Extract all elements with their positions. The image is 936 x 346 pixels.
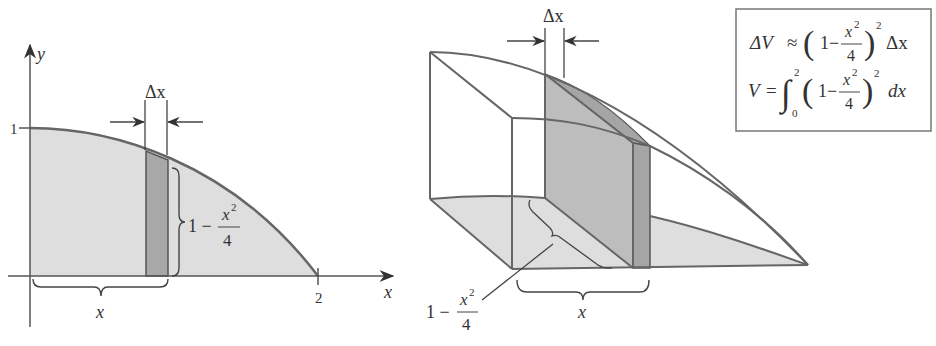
delta-x-label: Δx bbox=[145, 82, 166, 102]
y-axis-label: y bbox=[35, 44, 45, 64]
formula-panel: ΔV ≈ ( 1− x 2 4 ) 2 Δx V = ∫ 2 0 ( 1− x … bbox=[736, 9, 931, 131]
svg-text:2: 2 bbox=[852, 66, 858, 78]
svg-text:(: ( bbox=[803, 24, 814, 62]
svg-text:2: 2 bbox=[794, 66, 800, 78]
svg-text:x: x bbox=[844, 23, 852, 40]
svg-text:4: 4 bbox=[223, 231, 232, 250]
svg-text:4: 4 bbox=[847, 47, 855, 64]
svg-text:=: = bbox=[766, 80, 777, 101]
svg-text:4: 4 bbox=[845, 95, 853, 112]
svg-text:1 −: 1 − bbox=[426, 302, 450, 322]
position-brace-3d bbox=[517, 280, 649, 300]
svg-text:ΔV: ΔV bbox=[749, 32, 775, 53]
delta-x-label-3d: Δx bbox=[543, 6, 564, 26]
svg-text:2: 2 bbox=[469, 286, 475, 298]
svg-text:2: 2 bbox=[231, 201, 237, 213]
position-brace bbox=[33, 279, 168, 296]
x-axis-label: x bbox=[383, 282, 392, 302]
svg-text:1−: 1− bbox=[818, 81, 837, 101]
svg-text:x: x bbox=[842, 71, 850, 88]
slab-front-face bbox=[633, 143, 650, 268]
position-label: x bbox=[95, 302, 104, 322]
svg-text:x: x bbox=[221, 205, 230, 224]
svg-text:0: 0 bbox=[792, 107, 798, 119]
svg-text:): ) bbox=[864, 24, 875, 62]
svg-text:2: 2 bbox=[874, 67, 880, 79]
svg-text:1−: 1− bbox=[820, 33, 839, 53]
svg-text:dx: dx bbox=[888, 80, 907, 101]
svg-text:x: x bbox=[459, 290, 468, 309]
svg-text:4: 4 bbox=[462, 315, 471, 334]
position-label-3d: x bbox=[577, 302, 586, 322]
left-panel-2d-region: 1 2 y x Δx 1 − x 2 4 x bbox=[8, 44, 393, 327]
region-under-curve bbox=[30, 128, 318, 276]
svg-text:2: 2 bbox=[854, 18, 860, 30]
delta-x-strip bbox=[146, 151, 168, 276]
x-tick-label: 2 bbox=[315, 290, 323, 306]
svg-text:1 −: 1 − bbox=[188, 216, 212, 236]
svg-text:Δx: Δx bbox=[886, 32, 908, 53]
volume-diagram: 1 2 y x Δx 1 − x 2 4 x bbox=[0, 0, 936, 346]
side-label: 1 − x 2 4 bbox=[426, 286, 478, 334]
svg-text:2: 2 bbox=[876, 19, 882, 31]
y-tick-label: 1 bbox=[10, 121, 18, 137]
svg-text:≈: ≈ bbox=[787, 32, 797, 53]
svg-text:): ) bbox=[862, 72, 873, 110]
svg-text:(: ( bbox=[802, 72, 813, 110]
